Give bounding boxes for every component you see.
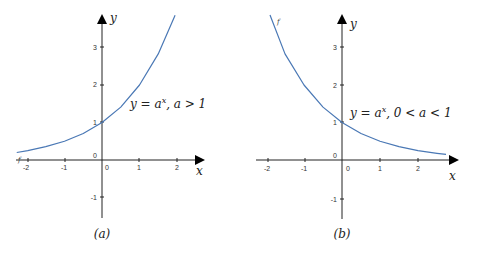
y-tick-label: 0 <box>93 152 97 159</box>
y-tick-label: 2 <box>93 81 97 88</box>
x-tick-label: -2 <box>23 164 29 171</box>
y-tick-label: 0 <box>333 152 337 159</box>
x-tick-label: 0 <box>346 165 350 172</box>
panel-caption: (a) <box>94 227 111 241</box>
eq-condition: , 0 < a < 1 <box>386 106 451 120</box>
x-tick-label: -1 <box>61 164 67 171</box>
x-tick-label: 1 <box>378 165 382 172</box>
y-tick-label: 3 <box>93 44 97 51</box>
panel-a: -2 -1 0 1 2 3 2 1 0 -1 x y f y = ax, a >… <box>16 11 206 241</box>
x-tick-label: 2 <box>175 164 179 171</box>
x-axis-label: x <box>196 164 203 178</box>
x-tick-label: -1 <box>301 165 307 172</box>
eq-base: = a <box>357 106 382 120</box>
eq-condition: , a > 1 <box>166 97 206 111</box>
equation-label: y = ax, a > 1 <box>129 96 206 111</box>
y-tick-label: 3 <box>333 44 337 51</box>
x-tick-label: 0 <box>105 164 109 171</box>
y-axis-label: y <box>109 11 117 25</box>
panel-caption: (b) <box>333 227 350 241</box>
exponential-curve-decay <box>270 15 446 154</box>
y-tick-label: 1 <box>93 119 97 126</box>
y-tick-label: -1 <box>91 194 97 201</box>
y-tick-label: 1 <box>333 119 337 126</box>
x-tick-label: 1 <box>137 164 141 171</box>
function-name: f <box>276 18 281 26</box>
x-tick-label: 2 <box>416 165 420 172</box>
exponential-graphs: -2 -1 0 1 2 3 2 1 0 -1 x y f y = ax, a >… <box>0 0 478 257</box>
y-axis-label: y <box>349 17 357 31</box>
eq-base: = a <box>137 97 162 111</box>
x-axis-label: x <box>449 169 456 183</box>
equation-label: y = ax, 0 < a < 1 <box>349 105 452 120</box>
y-tick-label: -1 <box>331 196 337 203</box>
panel-b: -2 -1 0 1 2 3 2 1 0 -1 x y f y = ax, 0 <… <box>256 15 457 241</box>
x-tick-label: -2 <box>264 165 270 172</box>
y-tick-label: 2 <box>333 82 337 89</box>
